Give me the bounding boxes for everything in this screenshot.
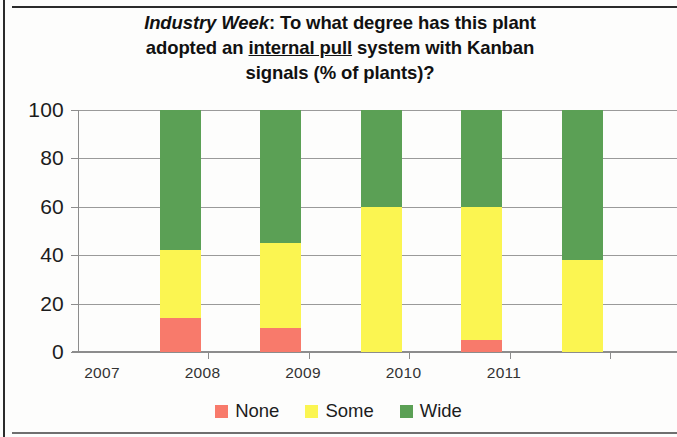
- bar-segment-wide: [160, 110, 201, 250]
- bar-segment-some: [160, 250, 201, 318]
- chart-title-part-3: system with Kanban: [352, 37, 534, 58]
- y-axis-tick: [71, 304, 79, 305]
- legend-label: None: [235, 400, 279, 422]
- bar-segment-wide: [361, 110, 402, 207]
- legend-item-wide[interactable]: Wide: [400, 400, 462, 422]
- x-axis-tick-label: 2009: [285, 364, 321, 382]
- bar-segment-some: [260, 243, 301, 328]
- chart-title: Industry Week: To what degree has this p…: [40, 10, 640, 85]
- page-border-bottom: [12, 432, 677, 434]
- x-axis-tick: [409, 352, 410, 359]
- bar-segment-some: [361, 207, 402, 352]
- chart-title-emphasis: internal pull: [249, 37, 353, 58]
- y-axis-tick: [71, 352, 79, 353]
- x-axis-tick: [208, 352, 209, 359]
- legend-label: Some: [325, 400, 373, 422]
- x-axis-tick-label: 2007: [84, 364, 120, 382]
- legend-swatch-icon: [305, 405, 318, 418]
- x-axis-tick-label: 2008: [185, 364, 221, 382]
- bar-segment-wide: [562, 110, 603, 260]
- bar-column: [562, 110, 603, 352]
- bar-segment-none: [461, 340, 502, 352]
- x-axis-tick-label: 2010: [386, 364, 422, 382]
- y-axis-tick-label: 60: [40, 195, 64, 219]
- chart-figure: Industry Week: To what degree has this p…: [0, 0, 677, 437]
- y-axis-tick-label: 100: [28, 98, 64, 122]
- bar-segment-wide: [461, 110, 502, 207]
- y-axis-tick-labels: 020406080100: [0, 110, 70, 352]
- y-axis-tick: [71, 158, 79, 159]
- x-axis-tick: [610, 352, 611, 359]
- bar-segment-none: [160, 318, 201, 352]
- chart-legend: NoneSomeWide: [0, 400, 677, 422]
- legend-item-none[interactable]: None: [215, 400, 279, 422]
- y-axis-tick: [71, 207, 79, 208]
- chart-title-part-4: signals (% of plants)?: [246, 62, 435, 83]
- x-axis-tick-label: 2011: [487, 364, 522, 382]
- y-axis-tick-label: 0: [52, 340, 64, 364]
- legend-item-some[interactable]: Some: [305, 400, 373, 422]
- bar-column: [260, 110, 301, 352]
- x-axis-tick: [309, 352, 310, 359]
- legend-swatch-icon: [400, 405, 413, 418]
- y-axis-tick-label: 20: [40, 292, 64, 316]
- x-axis-tick: [510, 352, 511, 359]
- bar-segment-some: [461, 207, 502, 340]
- plot-area: [78, 110, 677, 352]
- chart-title-source: Industry Week: [144, 12, 269, 33]
- bar-segment-some: [562, 260, 603, 352]
- y-axis-line: [78, 110, 79, 352]
- chart-title-part-2: adopted an: [146, 37, 249, 58]
- bar-column: [160, 110, 201, 352]
- bar-segment-wide: [260, 110, 301, 243]
- bar-column: [461, 110, 502, 352]
- y-axis-tick-label: 40: [40, 243, 64, 267]
- y-axis-tick-label: 80: [40, 146, 64, 170]
- bar-column: [361, 110, 402, 352]
- y-axis-tick: [71, 110, 79, 111]
- legend-swatch-icon: [215, 405, 228, 418]
- chart-title-part-1: : To what degree has this plant: [269, 12, 536, 33]
- page-border-top: [12, 6, 677, 8]
- legend-label: Wide: [420, 400, 462, 422]
- y-axis-tick: [71, 255, 79, 256]
- x-axis-tick-labels: 20072008200920102011: [78, 364, 677, 388]
- bar-segment-none: [260, 328, 301, 352]
